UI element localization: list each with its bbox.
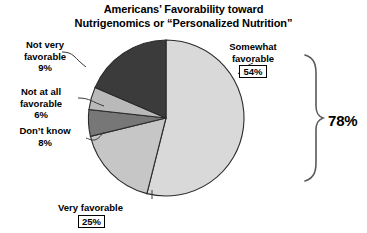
callout-not-at-all-favorable-line-2: favorable bbox=[4, 98, 78, 110]
total-favorable-value: 78% bbox=[328, 112, 357, 129]
callout-not-very-favorable-value: 9% bbox=[8, 62, 82, 74]
callout-dont-know-value: 8% bbox=[6, 137, 84, 149]
callout-not-very-favorable-line-2: favorable bbox=[8, 51, 82, 63]
callout-dont-know-line-1: Don’t know bbox=[6, 125, 84, 137]
callout-dont-know: Don’t know 8% bbox=[6, 125, 84, 148]
callout-very-favorable-value-wrap: 25% bbox=[58, 215, 178, 228]
callout-very-favorable: Very favorable 25% bbox=[58, 202, 178, 228]
callout-not-at-all-favorable: Not at all favorable 6% bbox=[4, 86, 78, 121]
callout-somewhat-favorable: Somewhat favorable 54% bbox=[215, 41, 291, 78]
callout-very-favorable-value: 25% bbox=[78, 215, 105, 228]
callout-not-very-favorable-line-1: Not very bbox=[8, 39, 82, 51]
callout-not-very-favorable: Not very favorable 9% bbox=[8, 39, 82, 74]
callout-somewhat-favorable-value-wrap: 54% bbox=[215, 65, 291, 78]
callout-not-at-all-favorable-value: 6% bbox=[4, 109, 78, 121]
callout-very-favorable-line-1: Very favorable bbox=[58, 202, 178, 214]
callout-somewhat-favorable-line-2: favorable bbox=[215, 53, 291, 65]
callout-somewhat-favorable-value: 54% bbox=[239, 65, 266, 78]
callout-not-at-all-favorable-line-1: Not at all bbox=[4, 86, 78, 98]
total-bracket-icon bbox=[305, 55, 323, 181]
chart-canvas: Americans’ Favorability toward Nutrigeno… bbox=[0, 0, 367, 233]
callout-somewhat-favorable-line-1: Somewhat bbox=[215, 41, 291, 53]
